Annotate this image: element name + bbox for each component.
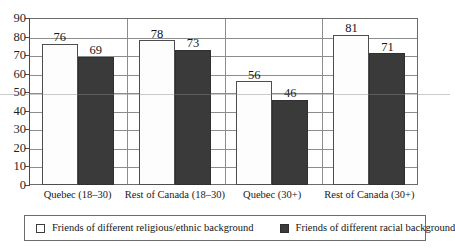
legend-label: Friends of different racial background	[296, 223, 455, 234]
bar-value-label: 76	[53, 31, 66, 44]
legend: Friends of different religious/ethnic ba…	[24, 215, 426, 241]
bar: 46	[272, 100, 308, 185]
bar-value-label: 69	[89, 44, 102, 57]
y-axis-label: 80	[14, 30, 27, 43]
dark-square-icon	[280, 224, 289, 233]
legend-item-religious-ethnic: Friends of different religious/ethnic ba…	[36, 223, 254, 234]
bar: 78	[139, 40, 175, 185]
legend-item-racial: Friends of different racial background	[280, 223, 455, 234]
category-separator	[225, 19, 226, 184]
legend-label: Friends of different religious/ethnic ba…	[52, 223, 254, 234]
bar: 71	[369, 53, 405, 185]
bar-value-label: 81	[345, 22, 358, 35]
bar-value-label: 46	[284, 87, 297, 100]
bar-value-label: 71	[381, 41, 394, 54]
x-axis-category-label: Rest of Canada (18–30)	[125, 190, 225, 201]
y-axis-label: 40	[14, 105, 27, 118]
bar-value-label: 56	[248, 69, 261, 82]
y-axis-label: 50	[14, 86, 27, 99]
x-axis-category-label: Quebec (18–30)	[44, 190, 112, 201]
category-separator	[322, 19, 323, 184]
bar-value-label: 73	[187, 37, 200, 50]
y-axis-label: 10	[14, 160, 27, 173]
bar: 81	[333, 35, 369, 185]
bar-value-label: 78	[151, 28, 164, 41]
y-axis-label: 70	[14, 49, 27, 62]
x-axis-category-label: Rest of Canada (30+)	[324, 190, 414, 201]
y-axis-label: 90	[14, 12, 27, 25]
y-axis-label: 30	[14, 123, 27, 136]
y-axis-label: 0	[20, 179, 26, 192]
bar: 69	[78, 57, 114, 185]
y-axis-label: 60	[14, 67, 27, 80]
bar: 73	[175, 50, 211, 185]
light-square-icon	[36, 224, 45, 233]
x-axis-category-label: Quebec (30+)	[243, 190, 301, 201]
bar: 76	[42, 44, 78, 185]
bar: 56	[236, 81, 272, 185]
category-separator	[127, 19, 128, 184]
y-axis: 0102030405060708090	[29, 18, 30, 185]
y-axis-label: 20	[14, 142, 27, 155]
